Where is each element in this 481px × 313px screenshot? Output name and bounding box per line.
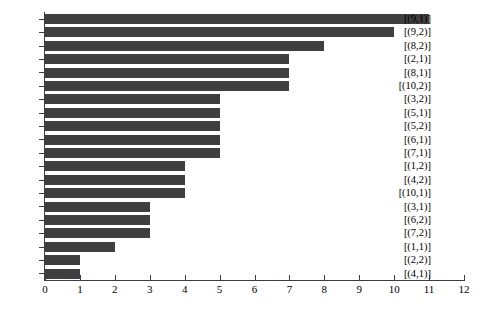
y-axis-tick (39, 247, 45, 248)
bar (45, 269, 80, 279)
x-axis-label: 2 (100, 283, 130, 295)
x-axis-label: 10 (379, 283, 409, 295)
category-label: [(8,2)] (231, 39, 431, 53)
y-axis-tick (39, 233, 45, 234)
x-axis-tick (220, 275, 221, 281)
category-label: [(1,1)] (231, 240, 431, 254)
x-axis-label: 11 (414, 283, 444, 295)
y-axis-tick (39, 86, 45, 87)
y-axis-tick (39, 180, 45, 181)
x-axis-label: 5 (205, 283, 235, 295)
bar (45, 175, 185, 185)
x-axis-tick (150, 275, 151, 281)
y-axis-tick (39, 32, 45, 33)
y-axis-tick (39, 220, 45, 221)
y-axis-tick (39, 126, 45, 127)
x-axis-label: 12 (449, 283, 479, 295)
y-axis-tick (39, 59, 45, 60)
category-label: [(3,2)] (231, 92, 431, 106)
x-axis-label: 7 (274, 283, 304, 295)
y-axis-tick (39, 46, 45, 47)
category-label: [(9,1)] (231, 12, 431, 26)
category-label: [(8,1)] (231, 66, 431, 80)
x-axis-tick (185, 275, 186, 281)
category-label: [(1,2)] (231, 159, 431, 173)
y-axis-tick (39, 72, 45, 73)
y-axis-tick (39, 166, 45, 167)
x-axis-tick (359, 275, 360, 281)
x-axis-label: 4 (170, 283, 200, 295)
x-axis-label: 0 (30, 283, 60, 295)
x-axis-tick (255, 275, 256, 281)
y-axis-tick (39, 99, 45, 100)
x-axis-tick (429, 275, 430, 281)
category-label: [(10,2)] (231, 79, 431, 93)
category-label: [(2,1)] (231, 52, 431, 66)
x-axis-tick (80, 275, 81, 281)
category-label: [(5,1)] (231, 106, 431, 120)
bar (45, 228, 150, 238)
bar (45, 188, 185, 198)
x-axis-label: 1 (65, 283, 95, 295)
category-label: [(7,1)] (231, 146, 431, 160)
y-axis-tick (39, 19, 45, 20)
bar (45, 135, 220, 145)
bar-chart: [(9,1)][(9,2)][(8,2)][(2,1)][(8,1)][(10,… (0, 0, 481, 313)
category-label: [(5,2)] (231, 119, 431, 133)
bar (45, 202, 150, 212)
x-axis-tick (464, 275, 465, 281)
bar (45, 94, 220, 104)
category-label: [(4,2)] (231, 173, 431, 187)
x-axis-tick (115, 275, 116, 281)
x-axis-tick (324, 275, 325, 281)
category-label: [(3,1)] (231, 200, 431, 214)
category-label: [(2,2)] (231, 253, 431, 267)
y-axis-tick (39, 193, 45, 194)
bar (45, 161, 185, 171)
bar (45, 242, 115, 252)
y-axis-tick (39, 139, 45, 140)
y-axis-tick (39, 260, 45, 261)
bar (45, 255, 80, 265)
category-label: [(4,1)] (231, 267, 431, 281)
x-axis-label: 8 (309, 283, 339, 295)
y-axis-tick (39, 113, 45, 114)
bar (45, 108, 220, 118)
bar (45, 148, 220, 158)
y-axis-tick (39, 153, 45, 154)
category-label: [(9,2)] (231, 25, 431, 39)
x-axis-label: 3 (135, 283, 165, 295)
category-label: [(6,2)] (231, 213, 431, 227)
category-label: [(6,1)] (231, 133, 431, 147)
x-axis-tick (289, 275, 290, 281)
category-label: [(10,1)] (231, 186, 431, 200)
x-axis-tick (45, 275, 46, 281)
x-axis-tick (394, 275, 395, 281)
x-axis-label: 9 (344, 283, 374, 295)
bar (45, 215, 150, 225)
category-label: [(7,2)] (231, 226, 431, 240)
bar (45, 121, 220, 131)
x-axis-label: 6 (240, 283, 270, 295)
y-axis-tick (39, 206, 45, 207)
